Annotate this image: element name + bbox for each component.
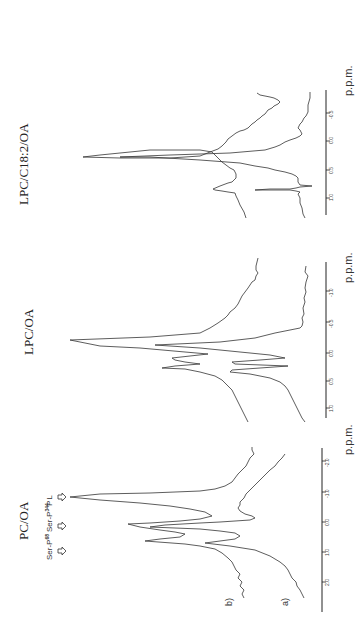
svg-text:0.0: 0.0 xyxy=(324,519,330,526)
trace-upper xyxy=(70,258,258,422)
annotation-pl: PL xyxy=(45,495,54,506)
x-axis-ticks: 1.0 0.5 0.0 -0.5 -1.0 xyxy=(326,288,334,412)
svg-text:-2.0: -2.0 xyxy=(324,458,330,467)
svg-text:1.0: 1.0 xyxy=(328,405,334,412)
arrow-ser-p-68-icon xyxy=(58,547,66,555)
panel-title: PC/OA xyxy=(16,501,31,540)
trace-lower xyxy=(120,92,312,218)
svg-text:1.0: 1.0 xyxy=(324,549,330,556)
svg-text:2.0: 2.0 xyxy=(324,579,330,586)
trace-label-b: b) xyxy=(224,598,234,606)
arrow-pl-icon xyxy=(58,493,66,501)
x-axis-ticks: 2.0 1.0 0.0 -1.0 -2.0 xyxy=(322,458,330,586)
peak-annotations: Ser-P68 Ser-P344 PL xyxy=(44,493,66,560)
axis-label-ppm: p.p.m. xyxy=(342,424,354,455)
nmr-figure: LPC/C18:2/OA 1.0 0.5 0.0 -0.5 p.p.m. LPC… xyxy=(0,0,363,634)
svg-text:-0.5: -0.5 xyxy=(328,110,334,119)
panel-title: LPC/OA xyxy=(21,308,36,355)
trace-b xyxy=(70,447,254,598)
panel-pc-oa: PC/OA Ser-P68 Ser-P344 PL 2.0 1.0 0.0 -1… xyxy=(16,424,354,612)
x-axis-ticks: 1.0 0.5 0.0 -0.5 xyxy=(326,110,334,201)
axis-label-ppm: p.p.m. xyxy=(342,65,354,96)
axis-label-ppm: p.p.m. xyxy=(342,252,354,283)
svg-text:-0.5: -0.5 xyxy=(328,319,334,328)
svg-text:0.5: 0.5 xyxy=(328,167,334,174)
svg-text:0.0: 0.0 xyxy=(328,137,334,144)
trace-label-a: a) xyxy=(280,598,290,606)
svg-text:1.0: 1.0 xyxy=(328,194,334,201)
svg-text:-1.0: -1.0 xyxy=(328,288,334,297)
annotation-ser-p-344: Ser-P344 xyxy=(44,503,54,532)
trace-lower xyxy=(155,266,308,422)
panel-lpc-oa: LPC/OA 1.0 0.5 0.0 -0.5 -1.0 p.p.m. xyxy=(21,252,354,422)
annotation-ser-p-68: Ser-P68 xyxy=(44,534,54,560)
panel-title: LPC/C18:2/OA xyxy=(16,123,31,205)
arrow-ser-p-344-icon xyxy=(58,522,66,530)
trace-a xyxy=(150,454,304,598)
panel-lpc-c18-oa: LPC/C18:2/OA 1.0 0.5 0.0 -0.5 p.p.m. xyxy=(16,65,354,218)
svg-text:-1.0: -1.0 xyxy=(324,489,330,498)
trace-upper xyxy=(83,93,280,218)
svg-text:0.0: 0.0 xyxy=(328,350,334,357)
svg-text:0.5: 0.5 xyxy=(328,378,334,385)
